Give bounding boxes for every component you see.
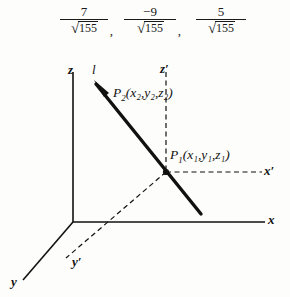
denominator: √155: [124, 20, 176, 36]
radicand: 155: [215, 21, 235, 34]
prime-mark: ′: [165, 61, 169, 76]
z-axis-label: z: [68, 62, 73, 78]
y-axis-line: [23, 222, 73, 280]
y-axis-label: y: [11, 274, 17, 290]
point-p1-label: P1(x₁,y₁,z₁): [170, 147, 230, 165]
line-l-label: l: [92, 62, 96, 78]
denominator: √155: [60, 20, 108, 36]
square-root: √155: [136, 21, 164, 36]
z-prime-axis-label: z′: [160, 61, 169, 77]
square-root: √155: [207, 21, 235, 36]
numerator: 7: [60, 5, 108, 19]
x-axis-label: x: [268, 212, 275, 228]
radicand: 155: [78, 21, 98, 34]
y-prime-axis-line: [66, 172, 166, 258]
square-root: √155: [70, 21, 98, 36]
p1-letter: P: [170, 147, 178, 162]
radicand: 155: [144, 21, 164, 34]
numerator: −9: [124, 5, 176, 19]
figure-page: 7 √155 , −9 √155 , 5 √1: [0, 0, 290, 297]
p2-letter: P: [113, 85, 121, 100]
diagram-canvas: [0, 44, 290, 297]
line-l-arrowhead-icon: [94, 80, 109, 97]
prime-mark: ′: [78, 254, 82, 269]
x-prime-axis-label: x′: [264, 163, 274, 179]
y-prime-axis-label: y′: [72, 254, 81, 270]
point-p1-marker: [163, 169, 169, 175]
comma-separator: ,: [110, 24, 113, 37]
coordinate-diagram: z x y z′ x′ y′ l P2(x₂,y₂,z₂) P1(x₁,y₁,z…: [0, 44, 290, 297]
direction-cosine-x-fraction: 7 √155 ,: [60, 5, 108, 36]
denominator: √155: [196, 20, 246, 36]
prime-mark: ′: [271, 163, 275, 178]
point-p2-label: P2(x₂,y₂,z₂): [113, 85, 173, 103]
direction-cosine-z-fraction: 5 √155: [196, 5, 246, 36]
p1-coords: (x₁,y₁,z₁): [183, 147, 230, 162]
direction-cosines-row: 7 √155 , −9 √155 , 5 √1: [0, 3, 290, 43]
numerator: 5: [196, 5, 246, 19]
comma-separator: ,: [178, 24, 181, 37]
p2-coords: (x₂,y₂,z₂): [126, 85, 173, 100]
direction-cosine-y-fraction: −9 √155 ,: [124, 5, 176, 36]
